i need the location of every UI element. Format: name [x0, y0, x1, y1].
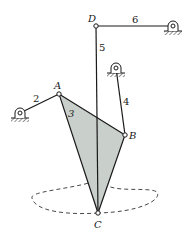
label-b: B — [128, 130, 136, 141]
ground-pivot-6-icon — [164, 21, 182, 35]
joint-c — [96, 211, 100, 215]
label-c: C — [94, 219, 102, 230]
label-link-5: 5 — [99, 42, 105, 53]
label-link-3: 3 — [68, 108, 74, 119]
ground-pivot-4-icon — [107, 63, 125, 77]
label-link-2: 2 — [33, 93, 39, 104]
label-a: A — [53, 80, 61, 91]
joint-d — [94, 24, 98, 28]
link-2 — [20, 94, 59, 113]
label-link-6: 6 — [132, 14, 138, 25]
label-link-4: 4 — [123, 96, 129, 107]
mechanism-diagram: A B C D 2 3 4 5 6 — [0, 0, 187, 235]
joint-b — [123, 133, 127, 137]
joint-a — [57, 92, 61, 96]
label-d: D — [87, 13, 96, 24]
